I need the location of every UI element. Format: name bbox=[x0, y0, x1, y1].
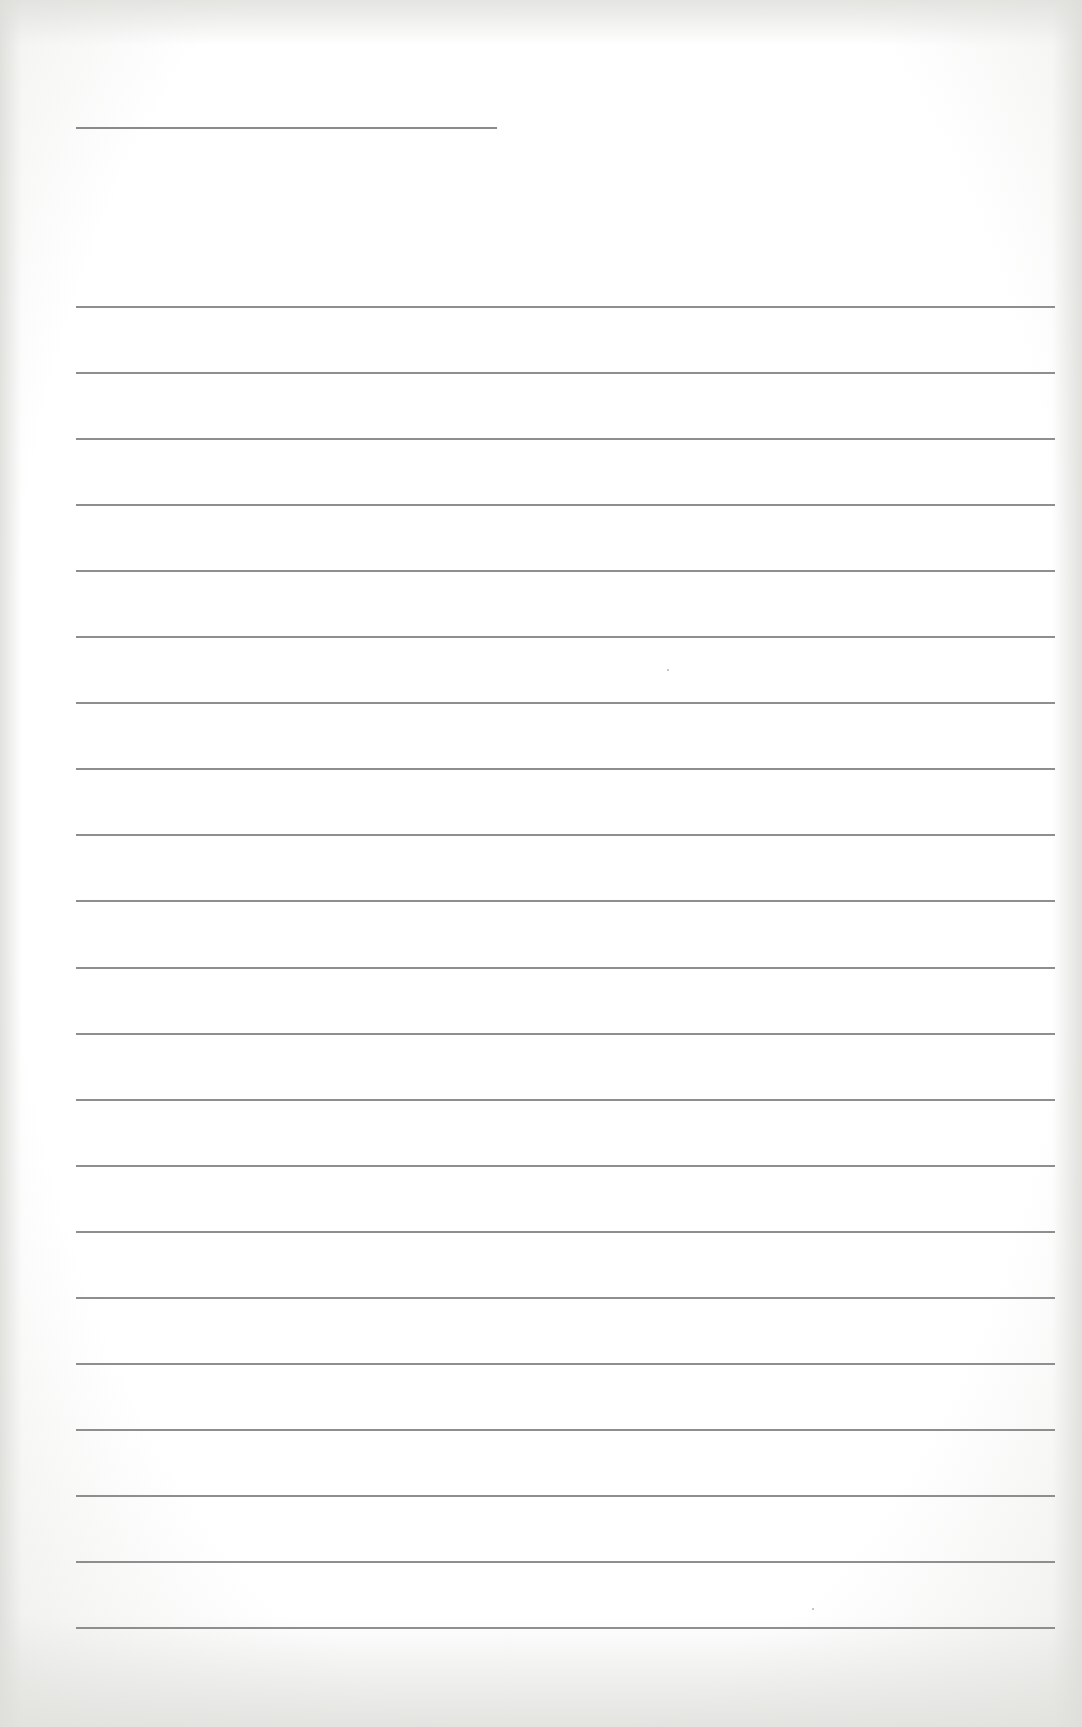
ruled-line bbox=[76, 900, 1055, 902]
ruled-line bbox=[76, 768, 1055, 770]
ruled-line bbox=[76, 1297, 1055, 1299]
ruled-line bbox=[76, 1363, 1055, 1365]
ruled-line bbox=[76, 372, 1055, 374]
ruled-line bbox=[76, 1627, 1055, 1629]
paper-speck bbox=[812, 1608, 814, 1610]
lined-paper-page bbox=[0, 0, 1082, 1727]
ruled-line bbox=[76, 1429, 1055, 1431]
ruled-line bbox=[76, 636, 1055, 638]
ruled-line bbox=[76, 1495, 1055, 1497]
ruled-line bbox=[76, 1165, 1055, 1167]
ruled-line bbox=[76, 1033, 1055, 1035]
ruled-line bbox=[76, 570, 1055, 572]
ruled-line bbox=[76, 438, 1055, 440]
ruled-lines bbox=[0, 0, 1082, 1727]
paper-speck bbox=[667, 669, 669, 671]
ruled-line bbox=[76, 1099, 1055, 1101]
ruled-line bbox=[76, 702, 1055, 704]
ruled-line bbox=[76, 306, 1055, 308]
ruled-line bbox=[76, 834, 1055, 836]
ruled-line bbox=[76, 504, 1055, 506]
ruled-line bbox=[76, 1231, 1055, 1233]
ruled-line bbox=[76, 967, 1055, 969]
ruled-line bbox=[76, 1561, 1055, 1563]
